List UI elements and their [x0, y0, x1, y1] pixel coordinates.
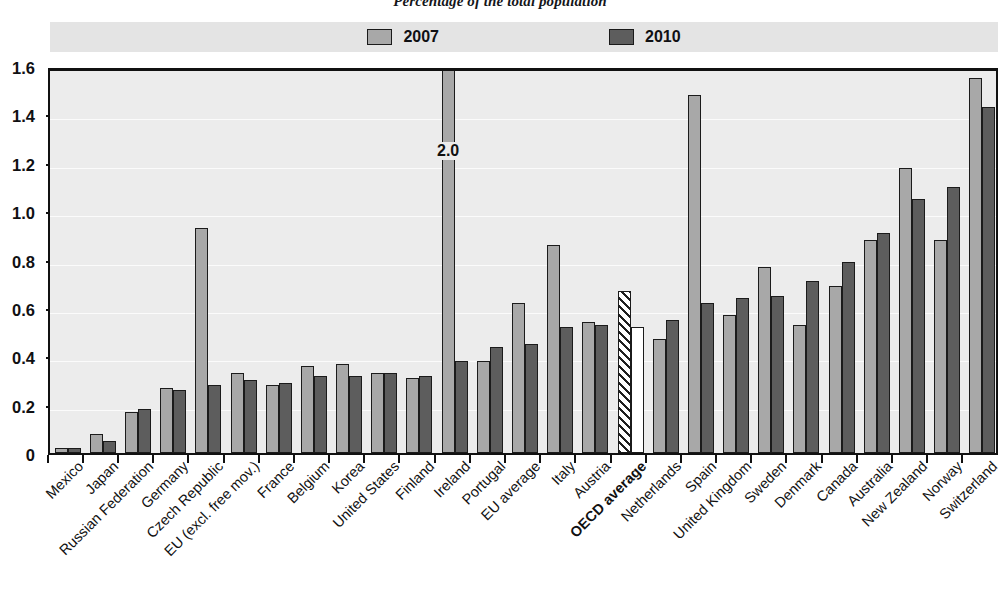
- x-axis-label: Mexico: [42, 458, 86, 502]
- plot-area: 2.0: [48, 68, 998, 455]
- legend-label-2010: 2010: [645, 28, 681, 46]
- bar-2007: [371, 373, 384, 453]
- bar-2007: [512, 303, 525, 453]
- bar-group: [160, 68, 186, 453]
- legend-swatch-2010: [609, 29, 634, 45]
- bar-2010: [419, 376, 432, 453]
- bar-group: [758, 68, 784, 453]
- bar-2007: [582, 322, 595, 453]
- bar-2007: [90, 434, 103, 453]
- bar-2010: [138, 409, 151, 453]
- chart-legend: 2007 2010: [50, 22, 998, 52]
- bar-2007: [723, 315, 736, 453]
- bar-group: [406, 68, 432, 453]
- bar-2010: [173, 390, 186, 453]
- bar-2010: [701, 303, 714, 453]
- y-tick-label: 0.6: [12, 300, 35, 319]
- legend-item-2010: 2010: [609, 28, 681, 46]
- x-axis-label: Finland: [393, 458, 438, 503]
- bar-group: [582, 68, 608, 453]
- bar-2007: [301, 366, 314, 453]
- chart-title: Percentage of the total population: [0, 0, 1000, 10]
- bar-group: [829, 68, 855, 453]
- bar-2007: [336, 364, 349, 453]
- bar-2010: [455, 361, 468, 453]
- bar-2007: [160, 388, 173, 453]
- bar-2007: [125, 412, 138, 453]
- bar-group: [688, 68, 714, 453]
- bar-2010: [877, 233, 890, 453]
- bar-value-annotation: 2.0: [435, 142, 461, 160]
- bar-group: [90, 68, 116, 453]
- bar-2010: [771, 296, 784, 453]
- bar-2007: [688, 95, 701, 453]
- bar-2007: [969, 78, 982, 453]
- bar-2010: [631, 327, 644, 453]
- y-tick-label: 1.0: [12, 204, 35, 223]
- bar-group: [266, 68, 292, 453]
- bar-2007: [758, 267, 771, 453]
- bar-group: [969, 68, 995, 453]
- bar-2007: [653, 339, 666, 453]
- bar-2007: [864, 240, 877, 453]
- bar-2007: [55, 448, 68, 453]
- bar-2010: [982, 107, 995, 453]
- legend-label-2007: 2007: [403, 28, 439, 46]
- bar-2010: [490, 347, 503, 453]
- bar-group: [55, 68, 81, 453]
- bar-2010: [68, 448, 81, 453]
- y-tick-label: 0.2: [12, 397, 35, 416]
- bar-2010: [595, 325, 608, 453]
- bar-2007: [547, 245, 560, 453]
- bar-2007: [195, 228, 208, 453]
- bar-2010: [842, 262, 855, 453]
- bar-group: [653, 68, 679, 453]
- bar-2010: [525, 344, 538, 453]
- legend-item-2007: 2007: [367, 28, 439, 46]
- bar-group: [336, 68, 362, 453]
- y-tick-label: 0: [26, 446, 35, 465]
- bars-container: 2.0: [50, 71, 996, 453]
- bar-2007: [266, 385, 279, 453]
- bar-group: [793, 68, 819, 453]
- bar-group: [899, 68, 925, 453]
- bar-group: [723, 68, 749, 453]
- bar-group: [301, 68, 327, 453]
- bar-2010: [314, 376, 327, 453]
- bar-group: [934, 68, 960, 453]
- y-axis: 00.20.40.60.81.01.21.41.6: [0, 60, 46, 470]
- bar-group: [864, 68, 890, 453]
- bar-2010: [947, 187, 960, 453]
- bar-2007: [406, 378, 419, 453]
- bar-group: [618, 68, 644, 453]
- y-tick-label: 0.8: [12, 252, 35, 271]
- bar-2007: [899, 168, 912, 453]
- x-axis-label: Italy: [548, 458, 578, 488]
- y-tick-label: 1.4: [12, 107, 35, 126]
- bar-2010: [208, 385, 221, 453]
- y-tick-label: 1.2: [12, 155, 35, 174]
- bar-2010: [736, 298, 749, 453]
- bar-2010: [279, 383, 292, 453]
- y-tick-label: 0.4: [12, 349, 35, 368]
- bar-2007: 2.0: [442, 68, 455, 453]
- bar-group: [547, 68, 573, 453]
- bar-2010: [560, 327, 573, 453]
- bar-2007: [477, 361, 490, 453]
- bar-group: [477, 68, 503, 453]
- legend-swatch-2007: [367, 29, 392, 45]
- bar-2007: [829, 286, 842, 453]
- bar-group: [512, 68, 538, 453]
- bar-2010: [912, 199, 925, 453]
- bar-group: [125, 68, 151, 453]
- y-tick-label: 1.6: [12, 59, 35, 78]
- bar-2007: [231, 373, 244, 453]
- bar-group: [371, 68, 397, 453]
- bar-group: [195, 68, 221, 453]
- bar-2007: [618, 291, 631, 453]
- bar-group: 2.0: [442, 68, 468, 453]
- x-axis-labels: MexicoJapanRussian FederationGermanyCzec…: [48, 458, 998, 578]
- bar-2007: [934, 240, 947, 453]
- bar-2010: [349, 376, 362, 453]
- bar-2010: [244, 380, 257, 453]
